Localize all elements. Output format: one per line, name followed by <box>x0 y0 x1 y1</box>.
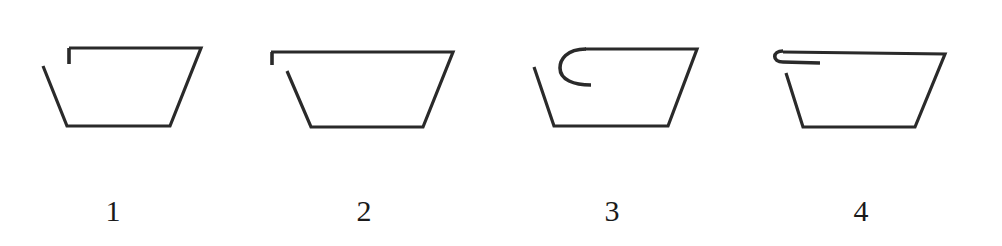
profile-1 <box>43 48 201 126</box>
profile-3-rim-curl <box>560 49 591 85</box>
profile-3 <box>534 49 697 126</box>
profile-4-label: 4 <box>841 194 881 228</box>
profile-2-body <box>271 52 453 127</box>
profile-3-label: 3 <box>592 194 632 228</box>
profile-1-body <box>43 48 201 126</box>
profile-1-label: 1 <box>93 194 133 228</box>
profile-2 <box>271 52 453 127</box>
profile-2-label: 2 <box>344 194 384 228</box>
profile-3-body <box>534 49 697 126</box>
profile-4 <box>775 51 945 127</box>
